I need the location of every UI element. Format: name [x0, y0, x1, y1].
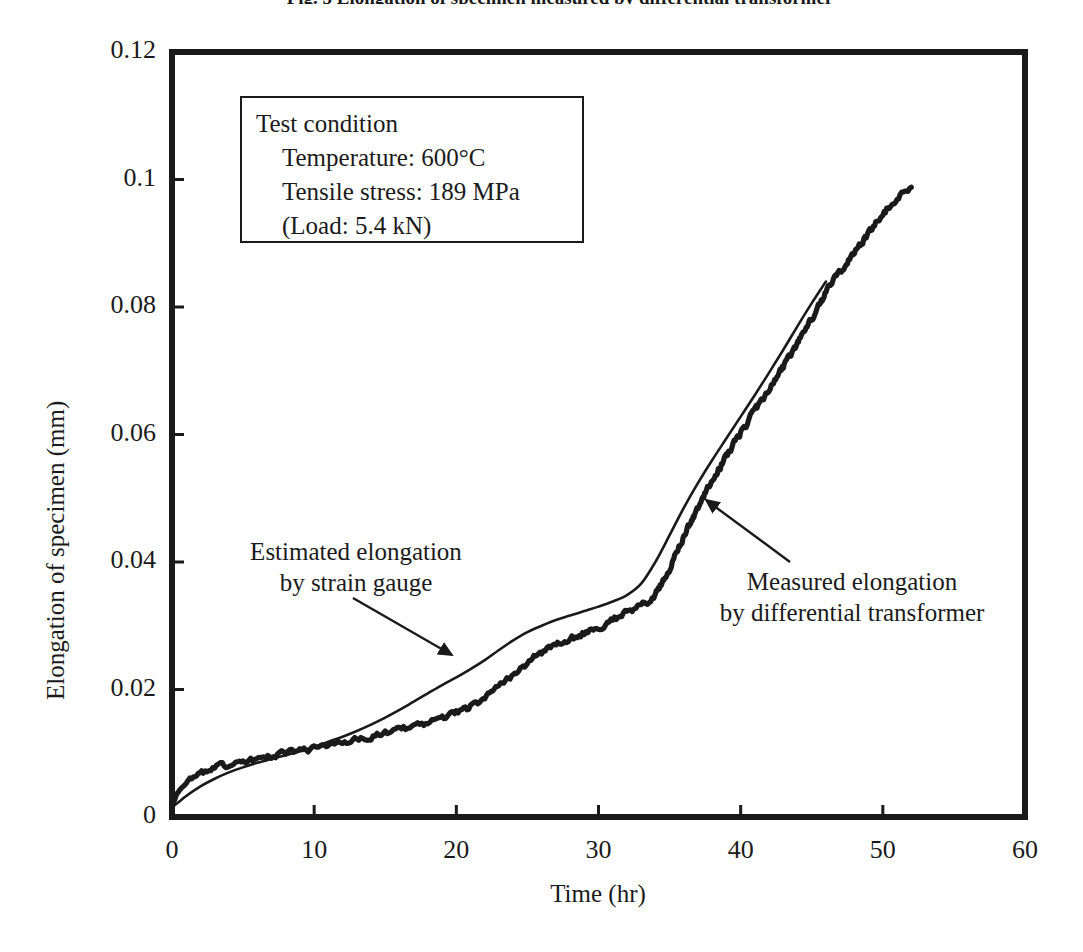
figure-root: Fig. 5 Elongation of specimen measured b… — [0, 0, 1083, 952]
x-tick-label: 60 — [975, 835, 1075, 865]
test-condition-stress: Tensile stress: 189 MPa — [256, 175, 582, 209]
annotation-measured-line2: by differential transformer — [720, 597, 985, 628]
test-condition-load: (Load: 5.4 kN) — [256, 209, 582, 243]
y-tick-label: 0 — [40, 800, 156, 830]
x-tick-label: 50 — [833, 835, 933, 865]
annotation-measured-line1: Measured elongation — [720, 566, 985, 597]
annotation-arrow-estimated — [353, 598, 452, 655]
x-tick-label: 40 — [691, 835, 791, 865]
y-tick-label: 0.12 — [40, 35, 156, 65]
test-condition-temperature: Temperature: 600°C — [256, 141, 582, 175]
x-tick-label: 10 — [264, 835, 364, 865]
chart-series — [172, 187, 911, 807]
x-tick-label: 30 — [549, 835, 649, 865]
x-tick-label: 20 — [406, 835, 506, 865]
y-axis-title: Elongation of specimen (mm) — [42, 401, 70, 700]
y-tick-label: 0.08 — [40, 290, 156, 320]
annotation-arrow-measured — [706, 500, 790, 562]
annotation-estimated-line2: by strain gauge — [250, 567, 462, 598]
annotation-measured-elongation: Measured elongation by differential tran… — [720, 566, 985, 628]
x-tick-label: 0 — [122, 835, 222, 865]
test-condition-box: Test condition Temperature: 600°C Tensil… — [240, 96, 584, 243]
test-condition-title: Test condition — [256, 107, 582, 141]
series-measured-elongation — [172, 187, 911, 804]
annotation-estimated-elongation: Estimated elongation by strain gauge — [250, 536, 462, 598]
x-axis-title: Time (hr) — [498, 880, 698, 908]
y-tick-label: 0.1 — [40, 163, 156, 193]
annotation-estimated-line1: Estimated elongation — [250, 536, 462, 567]
